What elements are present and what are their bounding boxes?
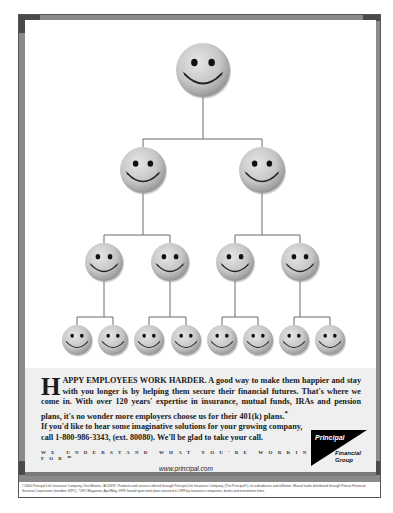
smiley-face-icon [120, 147, 167, 195]
frame-bottom-band [25, 472, 376, 476]
smiley-face-icon [176, 43, 231, 99]
footnote-mark: * [284, 409, 287, 416]
body-paragraph-2: If you'd like to hear some imaginative s… [41, 422, 316, 443]
smiley-face-icon [243, 325, 274, 357]
logo-sub-line-1: Financial [335, 450, 361, 457]
logo-subtitle: Financial Group [335, 450, 361, 464]
smiley-face-icon [85, 243, 124, 283]
smiley-face-icon [171, 325, 202, 357]
drop-cap: H [41, 377, 60, 396]
smiley-face-icon [207, 325, 238, 357]
smiley-face-icon [279, 325, 310, 357]
smiley-faces [62, 43, 346, 357]
headline: APPY EMPLOYEES WORK HARDER. [62, 376, 206, 385]
smiley-org-chart [0, 0, 393, 370]
smiley-face-icon [281, 243, 320, 283]
logo-sub-line-2: Group [335, 457, 361, 464]
smiley-face-icon [98, 325, 129, 357]
smiley-face-icon [315, 325, 346, 357]
smiley-face-icon [134, 325, 165, 357]
smiley-face-icon [151, 243, 190, 283]
smiley-face-icon [239, 147, 286, 195]
smiley-face-icon [62, 325, 93, 357]
smiley-face-icon [216, 243, 255, 283]
logo-wordmark: Principal [315, 434, 345, 441]
principal-logo: Principal Financial Group [311, 430, 367, 472]
connector-lines [77, 97, 330, 325]
legal-disclaimer: ©2000 Principal Life Insurance Company, … [19, 482, 380, 497]
